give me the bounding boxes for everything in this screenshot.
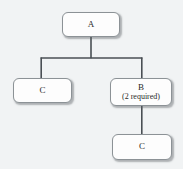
node-b[interactable]: B (2 required) [110, 78, 172, 106]
node-a[interactable]: A [62, 12, 120, 37]
node-c-bottom[interactable]: C [112, 134, 172, 160]
node-c-bottom-label: C [139, 142, 145, 151]
node-b-label: B [138, 83, 144, 92]
node-a-label: A [88, 20, 95, 29]
node-c-left-label: C [39, 86, 45, 95]
node-b-sublabel: (2 required) [122, 93, 160, 101]
node-c-left[interactable]: C [13, 78, 72, 103]
diagram-canvas: A C B (2 required) C [0, 0, 183, 169]
